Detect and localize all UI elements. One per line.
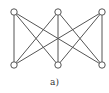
node-t2: [55, 9, 61, 15]
node-t3: [99, 9, 105, 15]
figure-caption: a): [0, 77, 109, 87]
node-b3: [99, 62, 105, 68]
node-b2: [55, 62, 61, 68]
node-t1: [11, 9, 17, 15]
graph-edges: [14, 12, 102, 65]
node-b1: [11, 62, 17, 68]
